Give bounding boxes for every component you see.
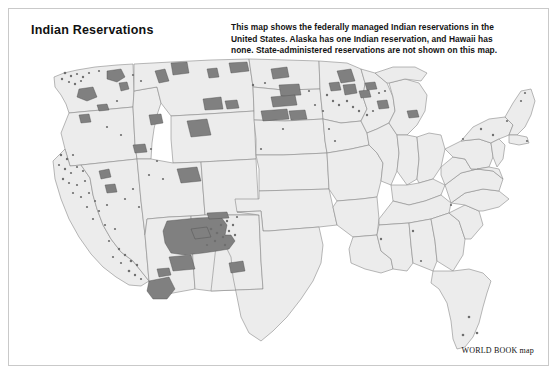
reservation-dot xyxy=(420,260,422,262)
state-new-jersey xyxy=(491,139,505,167)
reservation-dot xyxy=(82,76,84,78)
state-indiana xyxy=(397,135,419,185)
reservation-dot xyxy=(88,192,90,194)
reservation-dot xyxy=(68,81,70,83)
reservation-dot xyxy=(492,134,494,136)
reservation-fort-hall xyxy=(149,114,163,125)
reservation-dot xyxy=(322,110,324,112)
reservation-dot xyxy=(82,170,84,172)
reservation-dot xyxy=(68,182,70,184)
reservation-dot xyxy=(64,72,67,75)
publisher-credit: WORLD BOOK map xyxy=(461,346,534,355)
reservation-dot xyxy=(132,188,134,190)
reservation-dot xyxy=(234,234,236,236)
reservation-dot xyxy=(384,90,386,92)
reservation-dot xyxy=(58,164,60,166)
reservation-dot xyxy=(366,114,368,116)
reservation-dot xyxy=(334,140,336,142)
reservation-dot xyxy=(76,184,78,186)
reservation-white-earth xyxy=(329,82,341,91)
reservation-dot xyxy=(84,180,86,182)
reservation-dot xyxy=(130,260,133,263)
reservation-dot xyxy=(66,158,68,160)
state-new-york xyxy=(461,117,513,143)
reservation-fort-belknap xyxy=(207,68,219,78)
reservation-dot xyxy=(206,244,208,246)
reservation-dot xyxy=(378,92,380,94)
reservation-dot xyxy=(80,196,82,198)
reservation-dot xyxy=(60,154,62,156)
reservation-dot xyxy=(232,224,234,226)
reservation-dot xyxy=(132,74,134,76)
state-michigan xyxy=(389,79,427,135)
reservation-crow xyxy=(203,97,223,110)
reservation-dot xyxy=(228,230,230,232)
reservation-dot xyxy=(62,178,64,180)
reservation-southern-ute xyxy=(207,212,229,219)
reservation-dot xyxy=(124,198,126,200)
reservation-pyramid-lake xyxy=(99,169,111,179)
reservation-dot xyxy=(70,172,72,174)
reservation-pine-ridge xyxy=(261,109,289,121)
reservation-dot xyxy=(282,128,284,130)
reservation-dot xyxy=(140,278,142,280)
state-ohio xyxy=(417,133,445,183)
reservation-dot xyxy=(326,94,328,96)
reservation-dot xyxy=(114,228,116,230)
reservation-dot xyxy=(412,230,414,232)
reservation-dot xyxy=(372,110,374,112)
reservation-standing-rock xyxy=(279,84,301,96)
reservation-dot xyxy=(120,262,122,264)
reservation-dot xyxy=(358,110,360,112)
reservation-dot xyxy=(104,224,106,226)
reservation-dot xyxy=(462,334,465,337)
reservation-menominee xyxy=(377,100,389,109)
reservation-dot xyxy=(526,140,528,142)
reservation-dot xyxy=(106,204,108,206)
reservation-dot xyxy=(64,168,66,170)
reservation-bad-river xyxy=(365,82,377,90)
reservation-dot xyxy=(236,216,238,218)
reservation-dot xyxy=(226,220,228,222)
reservation-dot xyxy=(88,72,90,74)
state-massachusetts xyxy=(509,135,529,145)
reservation-dot xyxy=(352,106,354,108)
reservation-dot xyxy=(450,204,452,206)
reservation-dot xyxy=(98,70,100,72)
description-line-2: United States. Alaska has one Indian res… xyxy=(231,34,521,46)
us-map-svg xyxy=(21,49,541,364)
reservation-dot xyxy=(252,84,254,86)
description-line-1: This map shows the federally managed Ind… xyxy=(231,22,521,34)
reservation-isabella xyxy=(407,110,419,118)
reservation-dot xyxy=(140,80,142,82)
reservation-dot xyxy=(148,174,150,176)
reservation-mescalero xyxy=(229,261,245,273)
reservation-dot xyxy=(462,138,464,140)
reservation-dot xyxy=(380,238,382,240)
reservation-blackfeet xyxy=(171,62,189,75)
state-nebraska xyxy=(254,119,327,155)
state-wyoming xyxy=(171,111,256,163)
reservation-dot xyxy=(76,166,78,168)
page-title: Indian Reservations xyxy=(31,23,154,37)
reservation-dot xyxy=(138,206,140,208)
reservation-dot xyxy=(214,240,216,242)
reservation-dot xyxy=(264,82,266,84)
reservation-wind-river xyxy=(187,119,211,137)
reservation-warm-springs xyxy=(79,114,91,123)
reservation-dot xyxy=(520,100,522,102)
reservation-dot xyxy=(156,160,158,162)
reservation-northern-cheyenne xyxy=(225,100,239,109)
reservation-dot xyxy=(332,100,334,102)
reservation-dot xyxy=(220,224,222,226)
reservation-dot xyxy=(108,240,110,242)
reservation-dot xyxy=(128,270,131,273)
reservation-walker-river xyxy=(105,184,117,193)
reservation-dot xyxy=(76,73,78,75)
reservation-dot xyxy=(120,134,122,136)
reservation-dot xyxy=(224,244,226,246)
reservation-fond-du-lac xyxy=(359,90,371,98)
reservation-dot xyxy=(222,236,224,238)
reservation-dot xyxy=(346,100,348,102)
reservation-dot xyxy=(92,218,94,220)
